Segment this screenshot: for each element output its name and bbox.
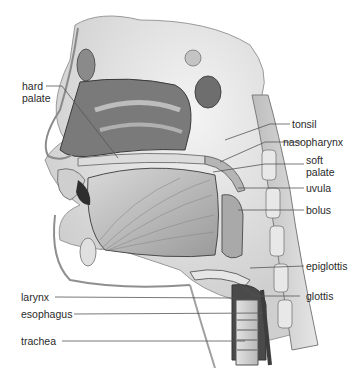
- sphenoid-sinus: [195, 76, 221, 108]
- label-soft-palate: soft palate: [306, 154, 335, 178]
- mandible: [80, 238, 96, 266]
- label-epiglottis: epiglottis: [306, 260, 347, 272]
- trachea-shape: [236, 300, 258, 365]
- label-nasopharynx: nasopharynx: [283, 136, 343, 148]
- label-bolus: bolus: [306, 204, 331, 216]
- tongue: [88, 168, 219, 256]
- pituitary: [185, 50, 201, 66]
- label-uvula: uvula: [306, 182, 331, 194]
- bolus-mass: [222, 195, 243, 258]
- label-trachea: trachea: [21, 335, 56, 347]
- frontal-sinus: [77, 49, 95, 81]
- label-glottis: glottis: [306, 290, 333, 302]
- label-larynx: larynx: [21, 291, 49, 303]
- label-tonsil: tonsil: [292, 118, 317, 130]
- nasal-cavity: [60, 79, 191, 157]
- label-hard-palate: hard palate: [22, 80, 51, 104]
- label-esophagus: esophagus: [21, 308, 72, 320]
